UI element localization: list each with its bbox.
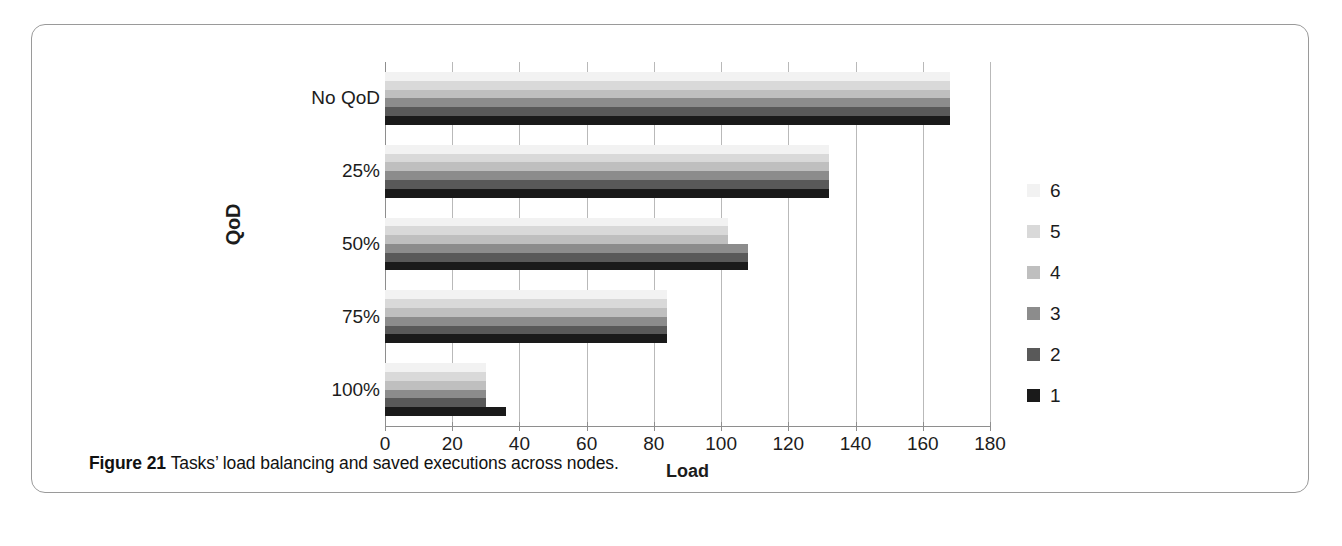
bar-group — [385, 363, 990, 416]
bar-series-1 — [385, 116, 950, 125]
x-axis-line — [385, 426, 990, 427]
category-label-no-qod: No QoD — [250, 87, 380, 109]
chart-area: QoD No QoD25%50%75%100% 0204060801001201… — [32, 25, 1310, 445]
bar-row — [385, 390, 990, 399]
bar-series-5 — [385, 372, 486, 381]
legend-label-5: 5 — [1050, 222, 1061, 241]
bar-row — [385, 189, 990, 198]
bar-series-1 — [385, 334, 667, 343]
bar-row — [385, 317, 990, 326]
bar-series-2 — [385, 326, 667, 335]
legend-item-4[interactable]: 4 — [1027, 252, 1147, 293]
x-tick-100 — [721, 422, 722, 431]
bar-series-4 — [385, 381, 486, 390]
caption-figure-number: Figure 21 — [89, 453, 166, 473]
category-label-75-: 75% — [250, 306, 380, 328]
bar-series-3 — [385, 244, 748, 253]
legend-label-3: 3 — [1050, 304, 1061, 323]
bar-row — [385, 308, 990, 317]
bar-series-1 — [385, 189, 829, 198]
legend-label-2: 2 — [1050, 345, 1061, 364]
legend-item-5[interactable]: 5 — [1027, 211, 1147, 252]
legend-swatch-5 — [1027, 225, 1040, 238]
bar-group — [385, 290, 990, 343]
legend-label-6: 6 — [1050, 181, 1061, 200]
bar-row — [385, 107, 990, 116]
bar-row — [385, 98, 990, 107]
legend-item-3[interactable]: 3 — [1027, 293, 1147, 334]
bar-row — [385, 372, 990, 381]
bar-series-5 — [385, 299, 667, 308]
x-tick-label-180: 180 — [974, 433, 1006, 455]
bar-series-3 — [385, 317, 667, 326]
x-tick-140 — [856, 422, 857, 431]
figure-caption: Figure 21 Tasks’ load balancing and save… — [89, 453, 619, 474]
bar-row — [385, 334, 990, 343]
bar-row — [385, 381, 990, 390]
category-label-25-: 25% — [250, 160, 380, 182]
figure-frame: QoD No QoD25%50%75%100% 0204060801001201… — [31, 24, 1309, 493]
bar-row — [385, 407, 990, 416]
bar-row — [385, 398, 990, 407]
caption-text: Tasks’ load balancing and saved executio… — [171, 453, 619, 473]
x-tick-label-100: 100 — [705, 433, 737, 455]
bar-series-5 — [385, 154, 829, 163]
bar-series-4 — [385, 235, 728, 244]
x-tick-label-0: 0 — [380, 433, 391, 455]
plot-area — [385, 62, 990, 426]
bar-series-6 — [385, 363, 486, 372]
bar-row — [385, 299, 990, 308]
bar-series-6 — [385, 145, 829, 154]
bar-row — [385, 218, 990, 227]
bar-group — [385, 145, 990, 198]
bar-series-3 — [385, 98, 950, 107]
x-tick-20 — [452, 422, 453, 431]
x-tick-120 — [788, 422, 789, 431]
legend-swatch-2 — [1027, 348, 1040, 361]
bar-row — [385, 244, 990, 253]
bar-series-3 — [385, 390, 486, 399]
bar-series-4 — [385, 308, 667, 317]
legend-swatch-1 — [1027, 389, 1040, 402]
x-tick-label-120: 120 — [772, 433, 804, 455]
legend-item-1[interactable]: 1 — [1027, 375, 1147, 416]
bar-row — [385, 262, 990, 271]
legend-item-6[interactable]: 6 — [1027, 170, 1147, 211]
bar-group — [385, 72, 990, 125]
bar-row — [385, 226, 990, 235]
bar-series-6 — [385, 290, 667, 299]
bar-group — [385, 218, 990, 271]
bar-row — [385, 290, 990, 299]
x-tick-0 — [385, 422, 386, 431]
bar-series-4 — [385, 162, 829, 171]
bar-row — [385, 154, 990, 163]
bar-row — [385, 171, 990, 180]
legend-swatch-3 — [1027, 307, 1040, 320]
bar-row — [385, 235, 990, 244]
bar-series-6 — [385, 72, 950, 81]
category-label-50-: 50% — [250, 233, 380, 255]
bar-series-5 — [385, 81, 950, 90]
bar-series-2 — [385, 253, 748, 262]
gridline-180 — [990, 62, 991, 426]
x-tick-label-40: 40 — [509, 433, 530, 455]
bar-row — [385, 162, 990, 171]
bar-series-2 — [385, 180, 829, 189]
bar-row — [385, 363, 990, 372]
x-tick-60 — [587, 422, 588, 431]
x-tick-label-80: 80 — [643, 433, 664, 455]
x-tick-40 — [519, 422, 520, 431]
bar-row — [385, 81, 990, 90]
bar-row — [385, 253, 990, 262]
category-label-100-: 100% — [250, 379, 380, 401]
bar-series-1 — [385, 262, 748, 271]
x-tick-160 — [923, 422, 924, 431]
bar-series-2 — [385, 107, 950, 116]
legend-item-2[interactable]: 2 — [1027, 334, 1147, 375]
x-tick-label-60: 60 — [576, 433, 597, 455]
legend-label-4: 4 — [1050, 263, 1061, 282]
bar-series-2 — [385, 398, 486, 407]
bar-series-5 — [385, 226, 728, 235]
bar-row — [385, 180, 990, 189]
x-tick-label-160: 160 — [907, 433, 939, 455]
